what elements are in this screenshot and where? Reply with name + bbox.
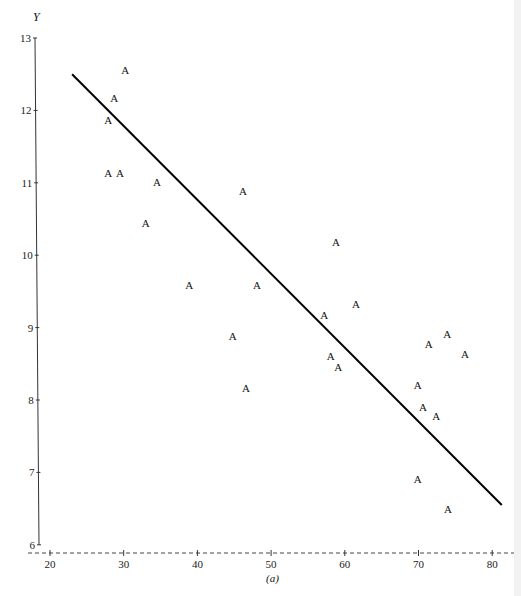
x-tick-label: 70 xyxy=(413,558,425,570)
regression-line xyxy=(72,74,502,505)
x-tick-label: 30 xyxy=(118,558,130,570)
data-point: A xyxy=(142,217,150,229)
data-point: A xyxy=(443,328,451,340)
page-edge xyxy=(514,0,521,596)
data-point: A xyxy=(121,64,129,76)
data-point: A xyxy=(425,338,433,350)
y-tick-label: 13 xyxy=(20,32,32,44)
data-point: A xyxy=(153,176,161,188)
x-tick-label: 80 xyxy=(487,558,499,570)
data-point: A xyxy=(444,503,452,515)
data-point: A xyxy=(332,236,340,248)
data-point: A xyxy=(253,279,261,291)
y-tick-label: 8 xyxy=(28,394,34,406)
x-tick-label: 20 xyxy=(45,558,57,570)
data-point: A xyxy=(185,279,193,291)
y-tick-label: 12 xyxy=(21,104,32,116)
data-point: A xyxy=(104,167,112,179)
y-axis-line xyxy=(35,38,39,545)
data-point: A xyxy=(334,361,342,373)
scatter-plot: 67891011121320304050607080AAAAAAAAAAAAAA… xyxy=(0,0,521,596)
data-point: A xyxy=(432,410,440,422)
x-tick-label: 60 xyxy=(339,558,351,570)
x-tick-label: 50 xyxy=(266,558,278,570)
data-point: A xyxy=(414,379,422,391)
y-tick-label: 9 xyxy=(28,322,34,334)
data-point: A xyxy=(320,309,328,321)
y-tick-label: 10 xyxy=(22,249,34,261)
data-point: A xyxy=(352,298,360,310)
data-point: A xyxy=(461,348,469,360)
x-tick-label: 40 xyxy=(192,558,204,570)
data-point: A xyxy=(414,473,422,485)
data-point: A xyxy=(110,92,118,104)
y-tick-label: 6 xyxy=(30,539,36,551)
data-point: A xyxy=(116,167,124,179)
y-tick-label: 7 xyxy=(29,466,35,478)
data-point: A xyxy=(239,185,247,197)
figure-caption: (a) xyxy=(0,572,521,584)
y-tick-label: 11 xyxy=(22,177,33,189)
data-point: A xyxy=(229,330,237,342)
data-point: A xyxy=(242,382,250,394)
data-point: A xyxy=(104,114,112,126)
data-point: A xyxy=(419,401,427,413)
